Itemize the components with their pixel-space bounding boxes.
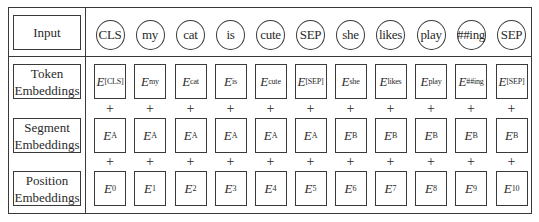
token-embedding-box: Elikes bbox=[375, 64, 407, 99]
plus-operator: + bbox=[215, 102, 247, 116]
embedding-symbol: E bbox=[297, 74, 305, 90]
embedding-symbol: E bbox=[144, 181, 152, 197]
plus-operator: + bbox=[215, 155, 247, 169]
embedding-subscript: B bbox=[392, 131, 397, 140]
position-label-line2: Embeddings bbox=[15, 189, 80, 206]
embedding-symbol: E bbox=[465, 181, 473, 197]
position-embedding-box: E4 bbox=[255, 171, 287, 206]
plus-operator: + bbox=[455, 102, 487, 116]
embedding-subscript: 9 bbox=[473, 184, 477, 193]
segment-embedding-box: EA bbox=[175, 118, 207, 153]
position-embedding-box: E3 bbox=[215, 171, 247, 206]
embedding-subscript: A bbox=[272, 131, 278, 140]
embedding-symbol: E bbox=[379, 74, 387, 90]
embedding-subscript: [CLS] bbox=[104, 77, 123, 86]
segment-label-line2: Embeddings bbox=[15, 136, 80, 153]
embedding-symbol: E bbox=[344, 128, 352, 144]
position-embedding-box: E7 bbox=[375, 171, 407, 206]
input-token-circle: cat bbox=[176, 20, 205, 50]
embedding-symbol: E bbox=[224, 128, 232, 144]
embedding-subscript: A bbox=[192, 131, 198, 140]
embedding-symbol: E bbox=[505, 128, 513, 144]
plus-operator: + bbox=[175, 155, 207, 169]
embedding-subscript: play bbox=[428, 77, 441, 86]
embedding-subscript: A bbox=[232, 131, 238, 140]
token-embedding-box: Ecute bbox=[255, 64, 287, 99]
token-embedding-box: E##ing bbox=[455, 64, 487, 99]
embedding-subscript: ##ing bbox=[466, 77, 483, 86]
token-embedding-box: Emy bbox=[134, 64, 166, 99]
plus-operator: + bbox=[335, 155, 367, 169]
token-embedding-box: Eshe bbox=[335, 64, 367, 99]
segment-embedding-box: EA bbox=[295, 118, 327, 153]
embedding-subscript: 10 bbox=[512, 184, 520, 193]
plus-operator: + bbox=[496, 155, 528, 169]
token-embedding-box: Eplay bbox=[415, 64, 447, 99]
embedding-subscript: B bbox=[472, 131, 477, 140]
token-label-line2: Embeddings bbox=[15, 82, 80, 99]
input-label-text: Input bbox=[33, 24, 60, 41]
embedding-subscript: 2 bbox=[193, 184, 197, 193]
embedding-symbol: E bbox=[143, 128, 151, 144]
embedding-symbol: E bbox=[498, 74, 506, 90]
input-token-circle: likes bbox=[376, 20, 405, 50]
embedding-symbol: E bbox=[182, 74, 190, 90]
input-token-circle: is bbox=[216, 20, 245, 50]
token-label-line1: Token bbox=[31, 65, 63, 82]
position-embedding-box: E8 bbox=[415, 171, 447, 206]
token-embedding-box: E[SEP] bbox=[496, 64, 528, 99]
plus-operator: + bbox=[335, 102, 367, 116]
plus-operator: + bbox=[496, 102, 528, 116]
embedding-subscript: B bbox=[432, 131, 437, 140]
token-embedding-box: E[SEP] bbox=[295, 64, 327, 99]
plus-operator: + bbox=[255, 102, 287, 116]
embedding-symbol: E bbox=[141, 74, 149, 90]
embedding-subscript: cat bbox=[190, 77, 199, 86]
embedding-symbol: E bbox=[103, 128, 111, 144]
input-token-circle: SEP bbox=[296, 20, 325, 50]
plus-operator: + bbox=[375, 102, 407, 116]
embedding-subscript: [SEP] bbox=[506, 77, 524, 86]
plus-operator: + bbox=[94, 102, 126, 116]
embedding-symbol: E bbox=[341, 74, 349, 90]
plus-operator: + bbox=[415, 155, 447, 169]
segment-embedding-box: EA bbox=[215, 118, 247, 153]
embedding-symbol: E bbox=[345, 181, 353, 197]
embedding-subscript: [SEP] bbox=[305, 77, 323, 86]
input-token-circle: CLS bbox=[96, 20, 125, 50]
input-row-label: Input bbox=[13, 15, 81, 50]
input-token-circle: ##ing bbox=[457, 20, 486, 50]
plus-operator: + bbox=[455, 155, 487, 169]
segment-label-line1: Segment bbox=[24, 119, 70, 136]
plus-operator: + bbox=[175, 102, 207, 116]
segment-embedding-box: EB bbox=[415, 118, 447, 153]
input-token-circle: SEP bbox=[497, 20, 526, 50]
embedding-symbol: E bbox=[264, 128, 272, 144]
segment-embedding-box: EA bbox=[134, 118, 166, 153]
input-token-circle: play bbox=[417, 20, 446, 50]
embedding-subscript: A bbox=[312, 131, 318, 140]
embedding-symbol: E bbox=[424, 128, 432, 144]
plus-operator: + bbox=[134, 155, 166, 169]
embedding-subscript: cute bbox=[268, 77, 281, 86]
embedding-subscript: 5 bbox=[313, 184, 317, 193]
plus-operator: + bbox=[94, 155, 126, 169]
embedding-symbol: E bbox=[265, 181, 273, 197]
embedding-symbol: E bbox=[305, 181, 313, 197]
segment-embeddings-label: Segment Embeddings bbox=[13, 118, 81, 153]
embedding-symbol: E bbox=[184, 128, 192, 144]
position-embedding-box: E1 bbox=[134, 171, 166, 206]
plus-operator: + bbox=[415, 102, 447, 116]
segment-embedding-box: EA bbox=[94, 118, 126, 153]
embedding-symbol: E bbox=[464, 128, 472, 144]
token-embedding-box: Eis bbox=[215, 64, 247, 99]
embedding-symbol: E bbox=[97, 74, 105, 90]
plus-operator: + bbox=[375, 155, 407, 169]
segment-embedding-box: EB bbox=[335, 118, 367, 153]
embedding-subscript: B bbox=[352, 131, 357, 140]
input-row-divider bbox=[8, 56, 532, 57]
embedding-subscript: 4 bbox=[273, 184, 277, 193]
embedding-subscript: likes bbox=[387, 77, 401, 86]
token-embedding-box: E[CLS] bbox=[94, 64, 126, 99]
position-embedding-box: E10 bbox=[496, 171, 528, 206]
